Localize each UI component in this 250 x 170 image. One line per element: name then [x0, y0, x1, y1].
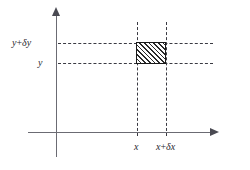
y-axis-label-upper: y+δy [12, 38, 31, 48]
x-axis-arrowhead-icon [210, 128, 219, 136]
dashed-line-x-left [137, 22, 138, 136]
y-axis-label-lower: y [38, 58, 42, 68]
x-axis-label-left: x [134, 142, 138, 152]
hatched-area-element [136, 42, 166, 64]
y-axis-line [56, 13, 57, 157]
y-axis-label-upper-delta: δy [22, 37, 31, 48]
dashed-line-x-right [166, 22, 167, 136]
x-axis-label-right: x+δx [156, 142, 175, 152]
diagram-canvas: y+δy y x x+δx [0, 0, 250, 170]
y-axis-arrowhead-icon [52, 7, 60, 16]
x-axis-label-right-delta: δx [166, 141, 175, 152]
